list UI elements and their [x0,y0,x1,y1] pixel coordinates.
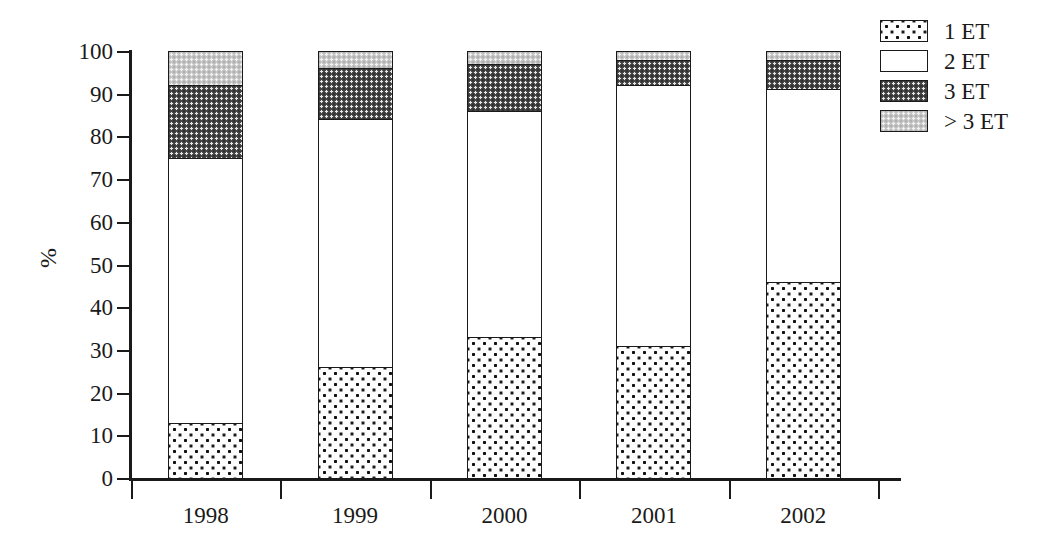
x-tick-label: 1999 [285,503,425,529]
y-tick-mark [117,393,130,395]
bar-group [467,52,542,479]
legend-swatch-icon [880,110,928,132]
bar-segment [318,119,393,368]
y-tick-mark [117,478,130,480]
bar-group [616,52,691,479]
y-axis-title: % [36,248,60,268]
y-tick-label: 10 [61,424,113,447]
y-tick-mark [117,307,130,309]
y-tick-label: 20 [61,382,113,405]
bar-segment [616,60,691,87]
bar-segment [168,85,243,159]
y-tick-label: 60 [61,211,113,234]
x-tick-mark [430,481,432,499]
bar-segment [168,423,243,480]
y-tick-label: 30 [61,339,113,362]
legend-label: > 3 ET [944,110,1008,133]
y-tick-label: 50 [61,254,113,277]
bar-group [318,52,393,479]
y-tick-mark [117,51,130,53]
bar-segment [766,89,841,282]
x-tick-label: 1998 [136,503,276,529]
y-tick-mark [117,179,130,181]
bar-segment [467,111,542,338]
legend-label: 1 ET [944,20,989,43]
x-tick-mark [280,481,282,499]
x-tick-label: 2001 [584,503,724,529]
x-tick-label: 2002 [733,503,873,529]
legend-label: 3 ET [944,80,989,103]
bar-segment [467,337,542,479]
y-tick-mark [117,136,130,138]
plot-area [131,52,878,479]
bar-segment [467,51,542,65]
y-tick-mark [117,94,130,96]
bar-segment [616,346,691,479]
legend-swatch-icon [880,20,928,42]
bar-segment [616,51,691,61]
legend-swatch-icon [880,50,928,72]
bar-group [766,52,841,479]
bar-group [168,52,243,479]
legend-item: 2 ET [880,46,1008,76]
bar-segment [766,60,841,91]
y-tick-label: 70 [61,168,113,191]
bar-segment [168,158,243,424]
legend-item: > 3 ET [880,106,1008,136]
x-tick-label: 2000 [435,503,575,529]
bar-segment [168,51,243,86]
y-tick-label: 0 [61,467,113,490]
x-tick-mark [131,481,133,499]
bar-segment [766,282,841,479]
y-tick-mark [117,222,130,224]
y-tick-label: 90 [61,83,113,106]
bar-segment [467,64,542,112]
y-tick-label: 100 [61,40,113,63]
legend-label: 2 ET [944,50,989,73]
x-tick-mark [579,481,581,499]
y-tick-mark [117,350,130,352]
y-tick-label: 40 [61,296,113,319]
bar-segment [318,68,393,120]
y-tick-label: 80 [61,125,113,148]
x-tick-mark [878,481,880,499]
bar-segment [616,85,691,346]
stacked-bar-chart: % 0102030405060708090100 199819992000200… [0,0,1054,551]
y-tick-mark [117,265,130,267]
x-tick-mark [729,481,731,499]
chart-legend: 1 ET2 ET3 ET> 3 ET [880,16,1008,136]
legend-swatch-icon [880,80,928,102]
legend-item: 1 ET [880,16,1008,46]
legend-item: 3 ET [880,76,1008,106]
bar-segment [766,51,841,61]
y-tick-mark [117,435,130,437]
bar-segment [318,51,393,69]
bar-segment [318,367,393,479]
